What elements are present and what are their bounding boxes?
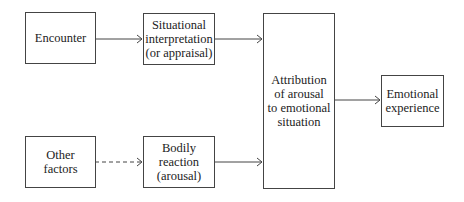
node-label: Situational interpretation (or appraisal… — [145, 18, 212, 60]
node-label: Bodily reaction (arousal) — [157, 141, 201, 183]
node-encounter: Encounter — [25, 12, 96, 64]
node-situational-interpretation: Situational interpretation (or appraisal… — [143, 13, 215, 65]
node-label: Attribution of arousal to emotional situ… — [268, 73, 331, 129]
node-emotional-experience: Emotional experience — [381, 75, 444, 127]
node-label: Other factors — [43, 148, 77, 176]
node-label: Emotional experience — [385, 87, 439, 115]
node-bodily-reaction: Bodily reaction (arousal) — [143, 136, 215, 188]
node-label: Encounter — [35, 31, 86, 45]
node-other-factors: Other factors — [25, 136, 96, 188]
node-attribution: Attribution of arousal to emotional situ… — [263, 13, 335, 189]
